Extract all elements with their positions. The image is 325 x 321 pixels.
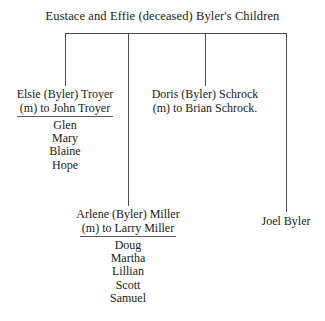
children-list-elsie: Glen Mary Blaine Hope — [2, 119, 128, 172]
sibling-connector-bar — [65, 33, 286, 34]
child-name: Lillian — [65, 265, 191, 278]
connector-elsie — [65, 33, 66, 86]
person-spouse-elsie: (m) to John Troyer — [2, 102, 128, 116]
child-name: Scott — [65, 279, 191, 292]
child-name: Blaine — [2, 145, 128, 158]
child-name: Hope — [2, 159, 128, 172]
person-name-joel: Joel Byler — [262, 214, 311, 228]
branch-elsie: Elsie (Byler) Troyer (m) to John Troyer … — [2, 88, 128, 172]
children-list-arlene: Doug Martha Lillian Scott Samuel — [65, 239, 191, 305]
connector-doris — [205, 33, 206, 86]
connector-arlene — [128, 33, 129, 206]
connector-joel — [286, 33, 287, 212]
spouse-divider-elsie — [17, 116, 113, 117]
branch-joel: Joel Byler — [246, 214, 325, 229]
person-name-doris: Doris (Byler) Schrock — [141, 88, 269, 102]
family-tree-diagram: Eustace and Effie (deceased) Byler's Chi… — [0, 0, 325, 321]
person-name-elsie: Elsie (Byler) Troyer — [2, 88, 128, 102]
person-spouse-arlene: (m) to Larry Miller — [65, 222, 191, 236]
branch-doris: Doris (Byler) Schrock (m) to Brian Schro… — [141, 88, 269, 115]
branch-arlene: Arlene (Byler) Miller (m) to Larry Mille… — [65, 208, 191, 305]
person-spouse-doris: (m) to Brian Schrock. — [141, 102, 269, 116]
spouse-divider-arlene — [80, 236, 176, 237]
child-name: Samuel — [65, 292, 191, 305]
diagram-title: Eustace and Effie (deceased) Byler's Chi… — [0, 9, 325, 24]
person-name-arlene: Arlene (Byler) Miller — [65, 208, 191, 222]
